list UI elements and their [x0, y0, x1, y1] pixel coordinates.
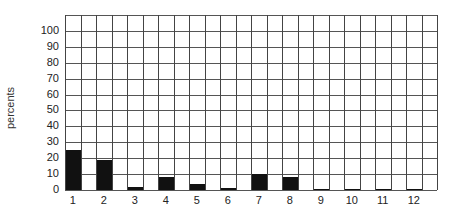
- x-tick-label: 3: [120, 194, 150, 206]
- x-tick-label: 6: [213, 194, 243, 206]
- y-tick-label: 90: [19, 40, 59, 52]
- y-axis-label: percents: [4, 78, 18, 138]
- y-tick-label: 70: [19, 72, 59, 84]
- gridline-vertical: [282, 15, 283, 190]
- gridline-vertical: [251, 15, 252, 190]
- gridline-vertical: [81, 15, 82, 190]
- x-tick-label: 2: [89, 194, 119, 206]
- x-tick-label: 1: [58, 194, 88, 206]
- y-tick-label: 40: [19, 120, 59, 132]
- y-tick-label: 0: [19, 183, 59, 195]
- x-tick-label: 4: [151, 194, 181, 206]
- bar-2: [97, 160, 112, 190]
- gridline-vertical: [236, 15, 237, 190]
- gridline-vertical: [406, 15, 407, 190]
- gridline-vertical: [174, 15, 175, 190]
- y-tick-label: 100: [19, 24, 59, 36]
- gridline-vertical: [205, 15, 206, 190]
- y-tick-label: 10: [19, 167, 59, 179]
- gridline-vertical: [313, 15, 314, 190]
- gridline-vertical: [220, 15, 221, 190]
- y-tick-label: 30: [19, 136, 59, 148]
- y-tick-label: 20: [19, 152, 59, 164]
- x-tick-label: 8: [275, 194, 305, 206]
- bar-7: [252, 174, 267, 190]
- gridline-vertical: [437, 15, 438, 190]
- gridline-vertical: [143, 15, 144, 190]
- bar-6: [221, 188, 236, 190]
- gridline-vertical: [391, 15, 392, 190]
- bar-12: [407, 189, 422, 191]
- bar-5: [190, 184, 205, 190]
- y-tick-label: 80: [19, 56, 59, 68]
- x-tick-label: 10: [337, 194, 367, 206]
- bar-11: [376, 189, 391, 191]
- bar-8: [283, 177, 298, 190]
- x-tick-label: 12: [399, 194, 429, 206]
- gridline-vertical: [127, 15, 128, 190]
- x-tick-label: 5: [182, 194, 212, 206]
- y-tick-label: 60: [19, 88, 59, 100]
- gridline-vertical: [112, 15, 113, 190]
- y-tick-label: 50: [19, 104, 59, 116]
- gridline-vertical: [158, 15, 159, 190]
- bar-1: [66, 150, 81, 190]
- x-tick-label: 7: [244, 194, 274, 206]
- bar-3: [128, 187, 143, 190]
- plot-area: [65, 15, 437, 190]
- gridline-vertical: [189, 15, 190, 190]
- x-tick-label: 11: [368, 194, 398, 206]
- gridline-vertical: [329, 15, 330, 190]
- gridline-horizontal: [65, 190, 437, 191]
- gridline-vertical: [267, 15, 268, 190]
- bar-4: [159, 177, 174, 190]
- gridline-vertical: [298, 15, 299, 190]
- gridline-vertical: [375, 15, 376, 190]
- bar-10: [345, 189, 360, 191]
- gridline-vertical: [360, 15, 361, 190]
- gridline-vertical: [422, 15, 423, 190]
- gridline-vertical: [344, 15, 345, 190]
- x-tick-label: 9: [306, 194, 336, 206]
- bar-9: [314, 189, 329, 191]
